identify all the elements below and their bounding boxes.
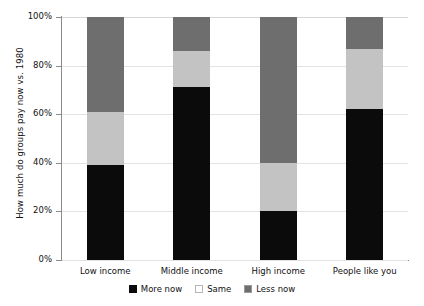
y-axis-tick-mark — [56, 163, 61, 164]
bar-people-like-you[interactable] — [346, 17, 383, 260]
bar-segment-less-now[interactable] — [173, 17, 210, 51]
legend-label: Same — [207, 284, 231, 294]
bar-segment-less-now[interactable] — [346, 17, 383, 49]
y-axis-tick-mark — [56, 260, 61, 261]
bar-segment-same[interactable] — [87, 112, 124, 165]
chart-legend: More nowSameLess now — [0, 284, 424, 294]
y-axis-tick-mark — [56, 17, 61, 18]
bar-high-income[interactable] — [260, 17, 297, 260]
y-axis-tick-label: 60% — [0, 108, 52, 118]
y-axis-tick-label: 0% — [0, 254, 52, 264]
y-axis-tick-label: 40% — [0, 157, 52, 167]
bar-segment-same[interactable] — [260, 163, 297, 212]
bar-low-income[interactable] — [87, 17, 124, 260]
legend-label: Less now — [256, 284, 295, 294]
legend-swatch-less-now-icon — [244, 285, 252, 293]
bar-middle-income[interactable] — [173, 17, 210, 260]
bar-segment-less-now[interactable] — [87, 17, 124, 112]
y-axis-title: How much do groups pay now vs. 1980 — [15, 8, 25, 258]
y-axis-tick-label: 20% — [0, 205, 52, 215]
legend-label: More now — [141, 284, 182, 294]
bar-segment-more-now[interactable] — [87, 165, 124, 260]
y-axis-tick-mark — [56, 66, 61, 67]
bar-segment-same[interactable] — [173, 51, 210, 87]
gridline — [62, 260, 408, 261]
y-axis-tick-label: 100% — [0, 11, 52, 21]
bar-segment-more-now[interactable] — [346, 109, 383, 260]
legend-item-less-now[interactable]: Less now — [244, 284, 295, 294]
bar-segment-more-now[interactable] — [173, 87, 210, 260]
legend-item-same[interactable]: Same — [195, 284, 231, 294]
legend-swatch-more-now-icon — [129, 285, 137, 293]
legend-item-more-now[interactable]: More now — [129, 284, 182, 294]
plot-area — [62, 17, 408, 260]
y-axis-tick-label: 80% — [0, 60, 52, 70]
y-axis-tick-mark — [56, 114, 61, 115]
stacked-bar-chart: How much do groups pay now vs. 1980 0%20… — [0, 0, 424, 306]
bar-segment-same[interactable] — [346, 49, 383, 110]
x-axis-label-people-like-you: People like you — [305, 266, 424, 276]
legend-swatch-same-icon — [195, 285, 203, 293]
bar-segment-more-now[interactable] — [260, 211, 297, 260]
y-axis-tick-mark — [56, 211, 61, 212]
bar-segment-less-now[interactable] — [260, 17, 297, 163]
